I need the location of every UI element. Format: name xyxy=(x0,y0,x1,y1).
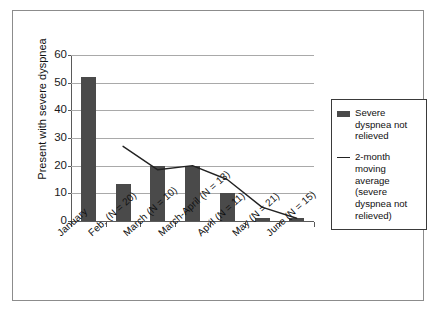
y-tick-label-50: 50 xyxy=(41,77,67,89)
y-tick-label-40: 40 xyxy=(41,104,67,116)
legend-item-severe-dyspnea: Severe dyspnea not relieved xyxy=(337,107,421,142)
y-tick-label-60: 60 xyxy=(41,49,67,61)
x-tick-mark-7 xyxy=(314,222,315,227)
chart-legend: Severe dyspnea not relieved 2-month movi… xyxy=(331,99,427,230)
line-swatch-icon xyxy=(337,157,350,158)
y-tick-label-30: 30 xyxy=(41,132,67,144)
legend-item-moving-average: 2-month moving average (severe dyspnea n… xyxy=(337,151,421,221)
legend-label-moving-average: 2-month moving average (severe dyspnea n… xyxy=(355,151,421,221)
y-tick-label-20: 20 xyxy=(41,160,67,172)
chart-frame: Present with severe dyspnea 60 50 40 30 … xyxy=(12,10,424,301)
y-axis-ticks: 60 50 40 30 20 10 0 xyxy=(37,55,67,221)
bar-swatch-icon xyxy=(337,111,350,117)
legend-label-severe-dyspnea: Severe dyspnea not relieved xyxy=(355,107,421,142)
figure-root: Present with severe dyspnea 60 50 40 30 … xyxy=(0,0,438,329)
y-tick-label-10: 10 xyxy=(41,187,67,199)
bar-january xyxy=(81,77,96,221)
